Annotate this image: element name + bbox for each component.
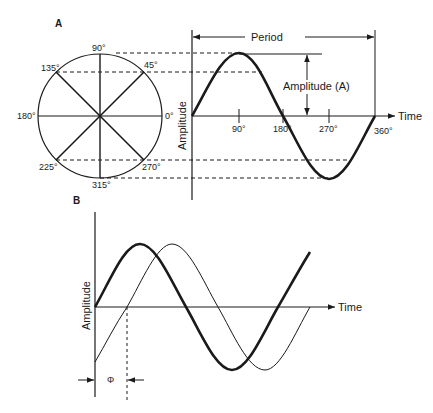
panel-b-time-label: Time [338, 301, 362, 313]
panel-b-label: B [73, 195, 80, 206]
angle-label-315: 270° [142, 162, 161, 172]
angle-label-180: 180° [17, 111, 36, 121]
panel-a-time-label: Time [398, 110, 422, 122]
panel-b-amplitude-axis-label: Amplitude [80, 281, 92, 330]
angle-label-0: 0° [165, 111, 174, 121]
panel-a-amplitude-axis-label: Amplitude [176, 101, 188, 150]
tick-360: 360° [374, 126, 393, 136]
angle-label-225: 225° [39, 162, 58, 172]
angle-label-270: 315° [92, 180, 111, 190]
sine-wave-diagram: A 0° 45° 90° 135° 180° 225° 270° 315° Ti… [0, 0, 433, 413]
phase-label: Φ [107, 375, 114, 385]
tick-270: 270° [319, 124, 338, 134]
tick-90: 90° [232, 124, 246, 134]
amplitude-label: Amplitude (A) [283, 80, 350, 92]
panel-a-label: A [55, 18, 62, 29]
angle-label-90: 90° [92, 43, 106, 53]
period-label: Period [251, 31, 283, 43]
angle-label-45: 45° [144, 60, 158, 70]
